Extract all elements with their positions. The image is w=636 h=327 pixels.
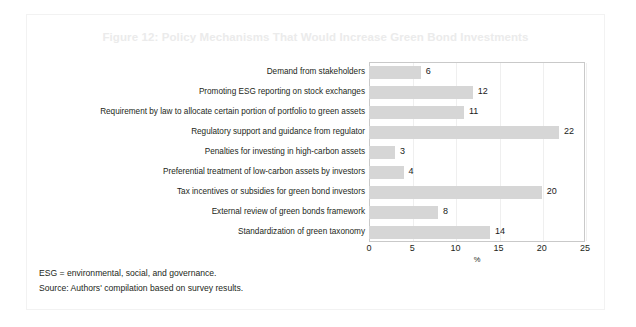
x-tick-label: 0 xyxy=(366,243,371,253)
bar-row: 11 xyxy=(369,102,585,122)
category-label: Penalties for investing in high-carbon a… xyxy=(33,142,369,162)
category-label: Promoting ESG reporting on stock exchang… xyxy=(33,82,369,102)
bar-value-label: 11 xyxy=(469,104,478,118)
category-label: Tax incentives or subsidies for green bo… xyxy=(33,182,369,202)
bar xyxy=(369,86,473,99)
x-tick-label: 20 xyxy=(537,243,547,253)
bar-value-label: 4 xyxy=(409,164,414,178)
bar-value-label: 8 xyxy=(443,204,448,218)
x-tick-label: 15 xyxy=(494,243,504,253)
bar xyxy=(369,166,404,179)
bar-value-label: 22 xyxy=(564,124,574,138)
bar-row: 8 xyxy=(369,202,585,222)
bar-value-label: 20 xyxy=(547,184,557,198)
bar-row: 20 xyxy=(369,182,585,202)
category-label: Regulatory support and guidance from reg… xyxy=(33,122,369,142)
gridline xyxy=(586,63,587,241)
bar-value-label: 14 xyxy=(495,224,505,238)
category-label: Standardization of green taxonomy xyxy=(33,222,369,242)
bar-row: 12 xyxy=(369,82,585,102)
x-tick-label: 5 xyxy=(410,243,415,253)
bar-value-label: 3 xyxy=(400,144,405,158)
bar-row: 14 xyxy=(369,222,585,242)
bar xyxy=(369,106,464,119)
figure-notes: ESG = environmental, social, and governa… xyxy=(39,266,579,296)
bar xyxy=(369,146,395,159)
category-label: Preferential treatment of low-carbon ass… xyxy=(33,162,369,182)
x-tick-label: 10 xyxy=(450,243,460,253)
category-label: Demand from stakeholders xyxy=(33,62,369,82)
category-label: Requirement by law to allocate certain p… xyxy=(33,102,369,122)
bar-chart: Demand from stakeholdersPromoting ESG re… xyxy=(27,49,606,249)
bar xyxy=(369,226,490,239)
bars-layer: 61211223420814 xyxy=(369,62,585,242)
note-source: Source: Authors' compilation based on su… xyxy=(39,281,579,296)
bar-value-label: 12 xyxy=(478,84,488,98)
category-label: External review of green bonds framework xyxy=(33,202,369,222)
bar xyxy=(369,126,559,139)
figure-title: Figure 12: Policy Mechanisms That Would … xyxy=(27,31,604,43)
bar-row: 3 xyxy=(369,142,585,162)
bar-row: 22 xyxy=(369,122,585,142)
bar-row: 6 xyxy=(369,62,585,82)
bar-value-label: 6 xyxy=(426,64,431,78)
figure-card: Figure 12: Policy Mechanisms That Would … xyxy=(26,14,605,310)
bar xyxy=(369,186,542,199)
note-esg: ESG = environmental, social, and governa… xyxy=(39,266,579,281)
x-axis-title: % xyxy=(369,255,585,264)
bar xyxy=(369,66,421,79)
x-tick-label: 25 xyxy=(580,243,590,253)
category-labels: Demand from stakeholdersPromoting ESG re… xyxy=(27,62,369,242)
bar-row: 4 xyxy=(369,162,585,182)
bar xyxy=(369,206,438,219)
